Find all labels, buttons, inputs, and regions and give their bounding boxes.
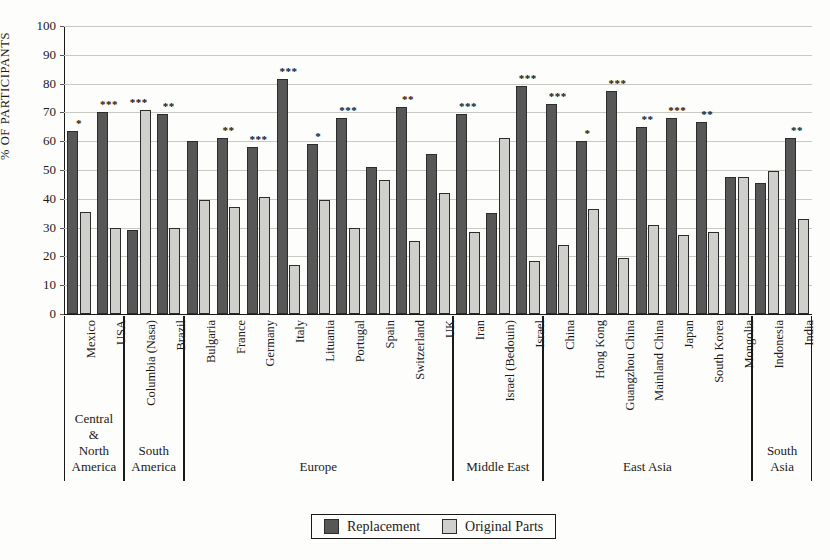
bar-replacement [336, 118, 347, 314]
significance-marker: *** [607, 79, 629, 88]
bar-replacement [546, 104, 557, 314]
bar-original-parts [169, 228, 180, 314]
region-label: South Asia [753, 443, 811, 475]
bar-replacement [725, 177, 736, 314]
gridline [64, 55, 812, 56]
significance-marker: * [68, 119, 90, 128]
region-box: East Asia [543, 316, 752, 481]
bar-original-parts [289, 265, 300, 314]
y-tick-label: 80 [16, 77, 56, 90]
y-tick-label: 40 [16, 192, 56, 205]
significance-marker: *** [277, 67, 299, 76]
region-label: Central & North America [65, 411, 123, 475]
bar-original-parts [229, 207, 240, 314]
bar-original-parts [140, 110, 151, 314]
significance-marker: *** [547, 92, 569, 101]
region-label: East Asia [544, 459, 751, 475]
bar-replacement [97, 112, 108, 314]
gridline [64, 84, 812, 85]
y-axis-title: % OF PARTICIPANTS [0, 32, 13, 160]
bar-original-parts [738, 177, 749, 314]
bar-original-parts [199, 200, 210, 314]
region-label: Europe [185, 459, 452, 475]
bar-original-parts [409, 241, 420, 314]
bar-original-parts [798, 219, 809, 314]
region-label: Middle East [454, 459, 542, 475]
bar-replacement [127, 230, 138, 314]
significance-marker: ** [158, 102, 180, 111]
significance-marker: ** [696, 110, 718, 119]
bar-replacement [277, 79, 288, 314]
bar-replacement [247, 147, 258, 314]
region-box: Europe [184, 316, 453, 481]
bar-replacement [755, 183, 766, 314]
significance-marker: ** [218, 126, 240, 135]
bar-replacement [217, 138, 228, 314]
bar-original-parts [319, 200, 330, 314]
bar-replacement [696, 122, 707, 314]
bar-replacement [666, 118, 677, 314]
legend-swatch-original-parts [442, 519, 457, 534]
y-tick-label: 50 [16, 163, 56, 176]
bar-replacement [576, 141, 587, 314]
legend-swatch-replacement [324, 519, 339, 534]
bar-original-parts [379, 180, 390, 314]
bar-chart: % OF PARTICIPANTS 1009080706050403020100… [0, 0, 830, 560]
y-tick-label: 10 [16, 278, 56, 291]
y-tick-label: 100 [16, 19, 56, 32]
bar-replacement [396, 107, 407, 314]
region-box: South America [124, 316, 184, 481]
bar-replacement [307, 144, 318, 314]
bar-replacement [785, 138, 796, 314]
significance-marker: *** [247, 135, 269, 144]
bar-original-parts [529, 261, 540, 314]
bar-original-parts [110, 228, 121, 314]
y-tick-label: 30 [16, 221, 56, 234]
bar-replacement [187, 141, 198, 314]
significance-marker: *** [517, 74, 539, 83]
y-tick-label: 60 [16, 134, 56, 147]
bar-original-parts [558, 245, 569, 314]
region-box: Central & North America [64, 316, 124, 481]
bar-replacement [486, 213, 497, 314]
significance-marker: ** [397, 95, 419, 104]
bar-original-parts [469, 232, 480, 314]
x-axis-line [64, 314, 812, 315]
plot-area: ****************************************… [64, 26, 812, 314]
gridline [64, 26, 812, 27]
y-tick-label: 90 [16, 48, 56, 61]
bar-original-parts [648, 225, 659, 314]
significance-marker: * [307, 132, 329, 141]
significance-marker: *** [457, 102, 479, 111]
bar-original-parts [80, 212, 91, 314]
legend-item-replacement: Replacement [324, 519, 420, 534]
bar-replacement [516, 86, 527, 314]
y-tick-label: 20 [16, 249, 56, 262]
region-box: South Asia [752, 316, 812, 481]
bar-replacement [456, 114, 467, 314]
chart-legend: Replacement Original Parts [311, 514, 556, 539]
significance-marker: *** [666, 106, 688, 115]
legend-item-original-parts: Original Parts [442, 519, 543, 534]
significance-marker: ** [786, 126, 808, 135]
significance-marker: *** [98, 100, 120, 109]
significance-marker: *** [337, 106, 359, 115]
bar-replacement [636, 127, 647, 314]
bar-original-parts [439, 193, 450, 314]
significance-marker: ** [636, 115, 658, 124]
bar-replacement [606, 91, 617, 314]
bar-original-parts [349, 228, 360, 314]
bar-original-parts [678, 235, 689, 314]
significance-marker: *** [128, 98, 150, 107]
bar-original-parts [708, 232, 719, 314]
bar-replacement [366, 167, 377, 314]
legend-label-replacement: Replacement [347, 520, 420, 534]
y-tick-label: 70 [16, 105, 56, 118]
bar-original-parts [588, 209, 599, 314]
bar-replacement [157, 114, 168, 314]
significance-marker: * [577, 129, 599, 138]
bar-replacement [67, 131, 78, 314]
legend-label-original-parts: Original Parts [465, 520, 543, 534]
bar-original-parts [259, 197, 270, 314]
bar-original-parts [499, 138, 510, 314]
